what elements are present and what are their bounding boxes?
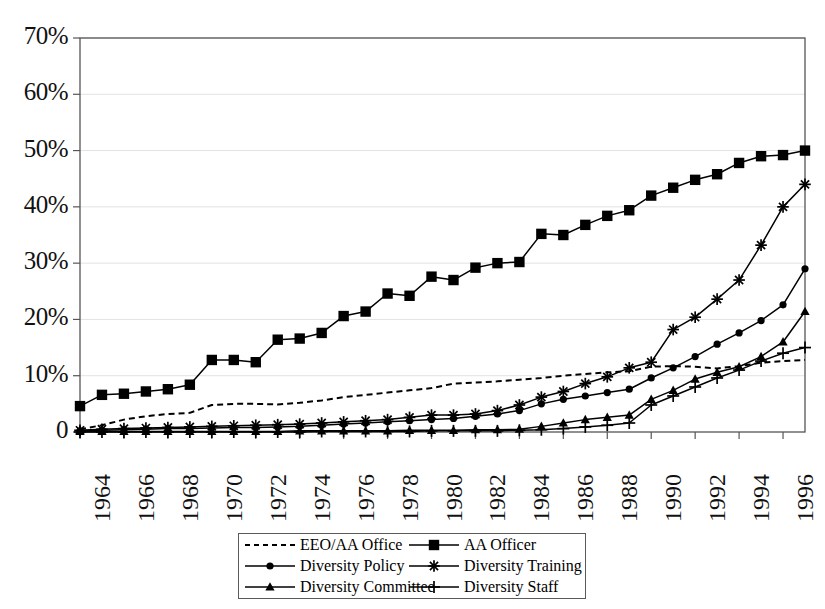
y-axis-tick-label: 30% (0, 247, 68, 275)
x-axis-tick-label: 1976 (353, 474, 380, 522)
series-diversity-policy (76, 265, 808, 434)
legend-swatch-none-icon (243, 537, 297, 553)
legend-label: EEO/AA Office (300, 536, 402, 554)
legend-item-aa-officer: AA Officer (403, 536, 587, 554)
x-axis-tick-label: 1986 (572, 474, 599, 522)
grid-lines (80, 38, 805, 376)
legend-swatch-asterisk-icon (407, 558, 461, 574)
legend-item-diversity-policy: Diversity Policy (239, 557, 403, 575)
x-axis-tick-label: 1972 (265, 474, 292, 522)
legend-label: AA Officer (464, 536, 536, 554)
x-axis-tick-label: 1996 (792, 474, 819, 522)
legend-label: Diversity Policy (300, 557, 404, 575)
y-axis-tick-label: 60% (0, 78, 68, 106)
x-axis-tick-label: 1980 (441, 474, 468, 522)
x-axis-tick-label: 1988 (616, 474, 643, 522)
legend-swatch-plus-icon (407, 579, 461, 595)
legend-swatch-triangle-icon (243, 579, 297, 595)
y-axis-tick-label: 40% (0, 191, 68, 219)
legend-item-diversity-committee: Diversity Committee (239, 578, 403, 596)
x-axis-tick-label: 1970 (221, 474, 248, 522)
x-axis-tick-label: 1982 (484, 474, 511, 522)
chart-legend: EEO/AA OfficeAA OfficerDiversity PolicyD… (238, 533, 586, 599)
legend-item-eeo-aa-office: EEO/AA Office (239, 536, 403, 554)
legend-label: Diversity Staff (464, 578, 558, 596)
x-axis-tick-label: 1964 (89, 474, 116, 522)
x-axis-tick-label: 1978 (397, 474, 424, 522)
legend-item-diversity-training: Diversity Training (403, 557, 587, 575)
x-axis-tick-label: 1990 (660, 474, 687, 522)
x-axis-tick-label: 1974 (309, 474, 336, 522)
legend-swatch-square-icon (407, 537, 461, 553)
y-axis-tick-label: 10% (0, 360, 68, 388)
x-axis-tick-label: 1966 (133, 474, 160, 522)
data-series-layer (74, 145, 811, 438)
y-axis-tick-label: 20% (0, 303, 68, 331)
y-axis-ticks (73, 38, 80, 432)
plot-frame (80, 38, 805, 432)
x-axis-tick-label: 1984 (528, 474, 555, 522)
series-diversity-staff (74, 342, 811, 438)
x-axis-tick-label: 1992 (704, 474, 731, 522)
series-aa-officer (75, 145, 810, 411)
x-axis-tick-label: 1994 (748, 474, 775, 522)
legend-swatch-circle-icon (243, 558, 297, 574)
series-diversity-training (74, 179, 811, 437)
x-axis-tick-label: 1968 (177, 474, 204, 522)
y-axis-tick-label: 70% (0, 22, 68, 50)
legend-item-diversity-staff: Diversity Staff (403, 578, 587, 596)
y-axis-tick-label: 50% (0, 135, 68, 163)
y-axis-tick-label: 0 (0, 416, 68, 444)
chart-container: 70%60%50%40%30%20%10%0 19641966196819701… (0, 0, 825, 609)
legend-label: Diversity Training (464, 557, 582, 575)
